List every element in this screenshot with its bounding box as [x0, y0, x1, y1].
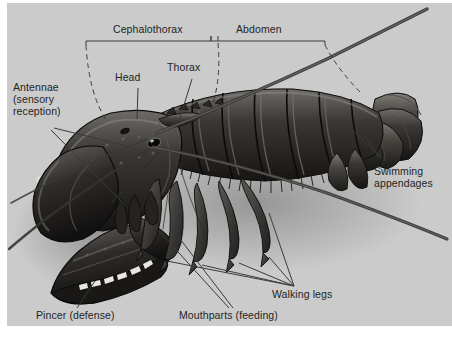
- label-antennae-line1: Antennae: [13, 82, 59, 94]
- label-antennae-line3: reception): [13, 106, 61, 118]
- label-swimming-line1: Swimming: [374, 166, 423, 178]
- label-abdomen: Abdomen: [236, 24, 282, 36]
- label-head: Head: [115, 72, 141, 84]
- figure-root: Cephalothorax Abdomen Thorax Head Antenn…: [0, 0, 452, 343]
- label-thorax: Thorax: [167, 62, 200, 74]
- label-walking-legs: Walking legs: [272, 289, 332, 301]
- label-antennae-line2: (sensory: [13, 94, 54, 106]
- label-pincer: Pincer (defense): [36, 310, 115, 322]
- label-cephalothorax: Cephalothorax: [113, 24, 183, 36]
- diagram-panel: Cephalothorax Abdomen Thorax Head Antenn…: [7, 3, 452, 326]
- label-mouthparts: Mouthparts (feeding): [179, 310, 278, 322]
- label-swimming-line2: appendages: [374, 178, 433, 190]
